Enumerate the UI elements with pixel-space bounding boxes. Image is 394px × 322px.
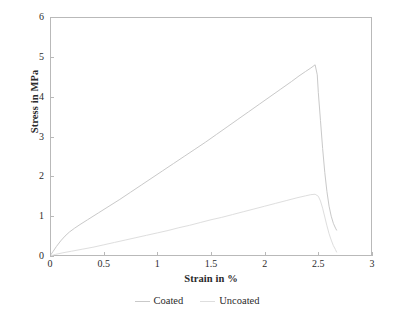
x-tick-mark [157,252,158,256]
x-tick-mark [104,252,105,256]
x-tick-label: 0 [30,258,70,269]
y-tick-label: 5 [22,52,44,62]
legend-item-coated: Coated [135,295,184,307]
x-tick-mark [50,252,51,256]
y-tick-mark [50,57,54,58]
legend-label: Uncoated [219,295,259,307]
series-line-coated [50,65,337,256]
x-tick-mark [372,252,373,256]
x-axis-title-text: Strain in % [50,273,372,284]
series-line-uncoated [50,194,337,256]
y-tick-label: 2 [22,171,44,181]
x-tick-label: 2 [245,258,285,269]
y-tick-mark [50,256,54,257]
legend-line-icon [200,301,215,302]
curve-layer [50,17,372,256]
y-tick-mark [50,17,54,18]
x-tick-label: 1.5 [191,258,231,269]
y-tick-label: 3 [22,132,44,142]
y-tick-mark [50,216,54,217]
x-tick-label: 3 [352,258,392,269]
legend-line-icon [135,301,150,302]
x-tick-label: 2.5 [298,258,338,269]
x-tick-mark [211,252,212,256]
x-tick-mark [265,252,266,256]
y-tick-mark [50,176,54,177]
x-tick-mark [318,252,319,256]
y-tick-mark [50,97,54,98]
legend-label: Coated [154,295,184,307]
y-tick-label: 6 [22,12,44,22]
x-tick-label: 0.5 [84,258,124,269]
y-tick-label: 1 [22,211,44,221]
y-tick-mark [50,137,54,138]
stress-strain-chart: Stress in MPa 0123456 Strain in % 00.511… [0,0,394,322]
x-tick-label: 1 [137,258,177,269]
y-tick-label: 4 [22,92,44,102]
legend-item-uncoated: Uncoated [200,295,259,307]
chart-legend: CoatedUncoated [0,295,394,307]
